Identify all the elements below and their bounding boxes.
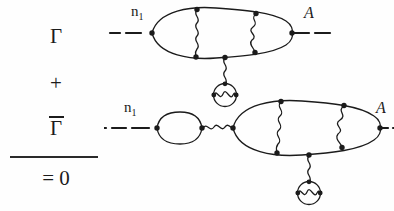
vacuum-bubble-bottom [295,179,322,204]
vertices-bottom [274,99,346,158]
main-loop-bottom [230,101,382,156]
label-n1-bottom: n1 [124,99,137,118]
diagram-area: n1 A n1 A [104,0,394,211]
figure-root: Γ + Γ = 0 [0,0,394,211]
label-n1-top: n1 [131,3,144,22]
equation-term-gamma-bar: Γ [8,116,104,139]
label-a-top: A [303,4,314,21]
photon-inner-left-bottom [276,102,282,153]
photon-inner-right-top [251,14,256,52]
feynman-diagrams-svg: n1 A n1 A [104,0,394,211]
photon-inner-left-top [195,10,198,57]
label-a-bottom: A [375,99,386,116]
main-loop-top [152,8,292,59]
equation-fraction-rule [10,156,98,158]
photon-to-bubble-top [224,58,227,84]
self-energy-bubble-bottom [154,112,204,144]
vacuum-bubble-top [211,81,238,106]
photon-to-bubble-bottom [308,156,311,182]
equation-column: Γ + Γ = 0 [8,8,104,203]
diagram-bottom [104,99,394,205]
equation-term-gamma: Γ [8,26,104,47]
equation-operator-plus: + [8,73,104,94]
photon-connector-bottom [203,125,232,129]
photon-inner-right-bottom [337,106,344,147]
gamma-bar-glyph: Γ [50,116,62,139]
equation-result: = 0 [8,168,104,189]
